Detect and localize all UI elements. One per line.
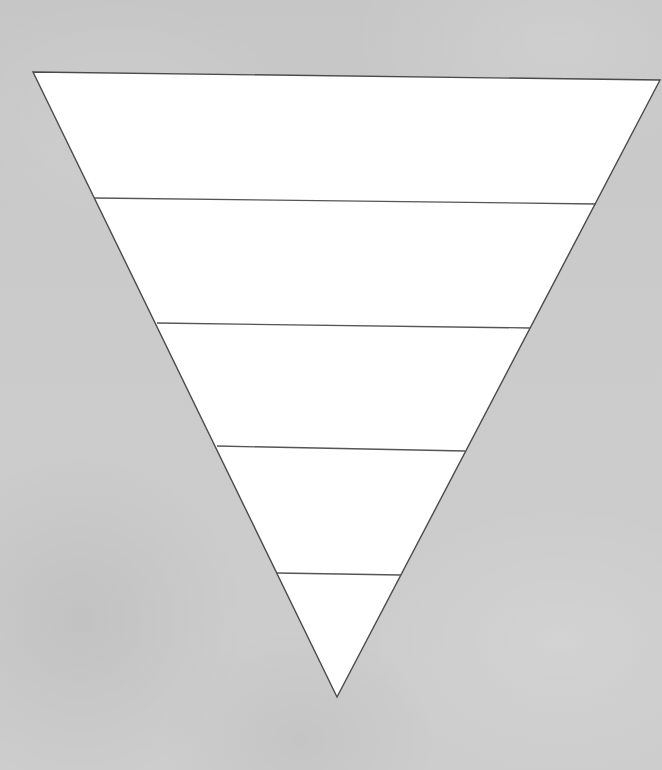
inverted-pyramid-diagram bbox=[0, 0, 662, 770]
pyramid-outline bbox=[33, 72, 660, 697]
